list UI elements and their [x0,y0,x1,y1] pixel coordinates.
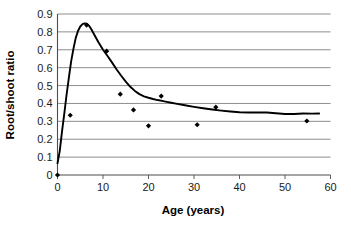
root-shoot-ratio-chart: 00.10.20.30.40.50.60.70.80.9 01020304050… [0,0,351,228]
y-tick-label: 0.2 [37,133,52,145]
y-tick-label: 0.3 [37,115,52,127]
x-tick-label: 50 [279,181,291,193]
y-tick-label: 0.7 [37,44,52,56]
y-tick-label: 0 [46,169,52,181]
y-tick-label: 0.4 [37,97,52,109]
x-tick-label: 30 [188,181,200,193]
y-tick-label: 0.5 [37,80,52,92]
x-tick-label: 40 [233,181,245,193]
x-tick-label: 10 [97,181,109,193]
y-axis-title: Root/shoot ratio [4,51,16,140]
x-tick-label: 0 [54,181,60,193]
x-tick-label: 60 [324,181,336,193]
y-tick-label: 0.8 [37,26,52,38]
x-axis-title: Age (years) [162,204,225,216]
y-tick-label: 0.1 [37,151,52,163]
x-tick-label: 20 [142,181,154,193]
y-tick-label: 0.9 [37,8,52,20]
chart-figure: 00.10.20.30.40.50.60.70.80.9 01020304050… [0,0,351,228]
y-tick-label: 0.6 [37,62,52,74]
